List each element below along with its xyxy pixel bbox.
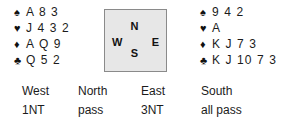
suit-row-hearts: ♥ A — [200, 20, 277, 36]
hand-south-diamonds: K J 7 3 — [212, 36, 257, 52]
diamond-icon: ♦ — [200, 36, 212, 52]
suit-row-clubs: ♣ Q 5 2 — [14, 52, 70, 68]
hand-south-hearts: A — [212, 20, 221, 36]
hand-west: ♠ A 8 3 ♥ J 4 3 2 ♦ A Q 9 ♣ Q 5 2 — [14, 4, 70, 68]
auction-seat-label: North — [78, 82, 107, 101]
hand-west-spades: A 8 3 — [26, 4, 59, 20]
compass-box: N W E S — [104, 9, 167, 72]
hand-west-clubs: Q 5 2 — [26, 52, 61, 68]
auction-call: pass — [78, 101, 107, 120]
auction-column-north: North pass — [78, 82, 107, 120]
compass-west-label: W — [112, 37, 122, 48]
auction-column-east: East 3NT — [141, 82, 165, 120]
suit-row-diamonds: ♦ K J 7 3 — [200, 36, 277, 52]
compass-north-label: N — [103, 21, 166, 32]
auction-table: West 1NT North pass East 3NT South all p… — [0, 82, 283, 124]
auction-seat-label: West — [22, 82, 49, 101]
club-icon: ♣ — [14, 52, 26, 68]
bridge-deal-diagram: ♠ A 8 3 ♥ J 4 3 2 ♦ A Q 9 ♣ Q 5 2 N W E … — [0, 0, 283, 127]
heart-icon: ♥ — [200, 20, 212, 36]
suit-row-spades: ♠ A 8 3 — [14, 4, 70, 20]
hand-south: ♠ 9 4 2 ♥ A ♦ K J 7 3 ♣ K J 10 7 3 — [200, 4, 277, 68]
auction-seat-label: East — [141, 82, 165, 101]
club-icon: ♣ — [200, 52, 212, 68]
heart-icon: ♥ — [14, 20, 26, 36]
auction-call: 1NT — [22, 101, 49, 120]
hand-west-hearts: J 4 3 2 — [26, 20, 70, 36]
hand-south-spades: 9 4 2 — [212, 4, 244, 20]
auction-column-south: South all pass — [201, 82, 242, 120]
suit-row-spades: ♠ 9 4 2 — [200, 4, 277, 20]
hand-south-clubs: K J 10 7 3 — [212, 52, 277, 68]
hand-west-diamonds: A Q 9 — [26, 36, 62, 52]
auction-seat-label: South — [201, 82, 242, 101]
auction-call: all pass — [201, 101, 242, 120]
diamond-icon: ♦ — [14, 36, 26, 52]
spade-icon: ♠ — [200, 4, 212, 20]
suit-row-hearts: ♥ J 4 3 2 — [14, 20, 70, 36]
compass-south-label: S — [103, 48, 166, 59]
spade-icon: ♠ — [14, 4, 26, 20]
suit-row-diamonds: ♦ A Q 9 — [14, 36, 70, 52]
compass-east-label: E — [152, 37, 159, 48]
auction-column-west: West 1NT — [22, 82, 49, 120]
auction-call: 3NT — [141, 101, 165, 120]
suit-row-clubs: ♣ K J 10 7 3 — [200, 52, 277, 68]
